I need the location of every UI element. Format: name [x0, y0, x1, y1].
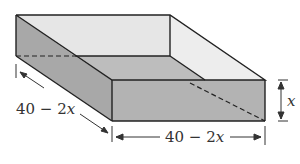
- width-label: 40 − 2x: [165, 128, 225, 146]
- front-face: [112, 80, 265, 121]
- depth-label: 40 − 2x: [16, 100, 76, 118]
- box-diagram: 40 − 2x 40 − 2x x: [0, 0, 300, 164]
- height-label: x: [287, 92, 296, 110]
